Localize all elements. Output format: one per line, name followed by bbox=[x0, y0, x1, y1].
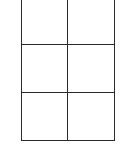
grid-cell-r3-c1 bbox=[22, 93, 67, 140]
grid-cell-r1-c1 bbox=[22, 0, 67, 44]
grid-cell-r2-c2 bbox=[68, 45, 114, 92]
grid-cell-r1-c2 bbox=[68, 0, 114, 44]
grid-right-border bbox=[114, 0, 115, 141]
empty-grid-table bbox=[21, 0, 115, 141]
grid-bottom-border bbox=[21, 140, 115, 141]
grid-cell-r2-c1 bbox=[22, 45, 67, 92]
grid-cell-r3-c2 bbox=[68, 93, 114, 140]
